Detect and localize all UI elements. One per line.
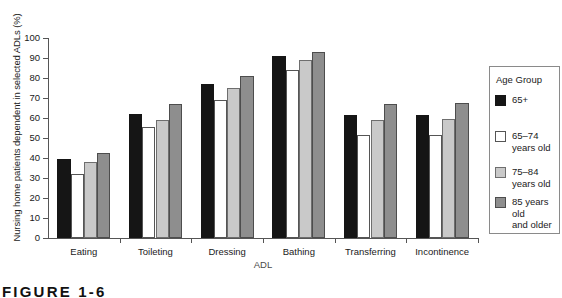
- y-axis-tick-label: 30: [29, 172, 40, 183]
- y-axis-tick-label: 0: [35, 232, 40, 243]
- bar: [142, 127, 155, 238]
- category-label: Transferring: [335, 246, 407, 257]
- bar: [384, 104, 397, 238]
- bar: [129, 114, 142, 238]
- y-axis-tick-label: 50: [29, 132, 40, 143]
- legend-label: 65–74 years old: [512, 130, 551, 153]
- bar: [272, 56, 285, 238]
- y-axis-tick: 50: [43, 138, 48, 139]
- bar: [344, 115, 357, 238]
- y-axis-tick: 100: [43, 38, 48, 39]
- legend-swatch: [495, 197, 506, 208]
- x-axis-tick: [335, 238, 336, 243]
- y-axis-tick: 80: [43, 78, 48, 79]
- figure-caption: FIGURE 1-6: [2, 283, 107, 298]
- y-axis-tick: 30: [43, 178, 48, 179]
- legend-swatch: [495, 131, 506, 142]
- bar: [442, 119, 455, 238]
- x-axis-tick: [478, 238, 479, 243]
- bar: [299, 60, 312, 238]
- legend-title: Age Group: [496, 74, 542, 85]
- legend-label: 75–84 years old: [512, 166, 551, 189]
- y-axis-tick: 20: [43, 198, 48, 199]
- legend: Age Group 65+65–74 years old75–84 years …: [489, 66, 560, 234]
- bar: [286, 70, 299, 238]
- bar: [71, 174, 84, 238]
- legend-swatch: [495, 167, 506, 178]
- bar: [214, 100, 227, 238]
- x-axis-tick: [406, 238, 407, 243]
- y-axis-tick-label: 100: [24, 32, 40, 43]
- category-label: Eating: [48, 246, 120, 257]
- x-axis-tick: [120, 238, 121, 243]
- bar: [169, 104, 182, 238]
- y-axis-tick-label: 70: [29, 92, 40, 103]
- x-axis-title: ADL: [48, 259, 478, 270]
- y-axis-tick-label: 80: [29, 72, 40, 83]
- y-axis-tick: 60: [43, 118, 48, 119]
- bar: [57, 159, 70, 238]
- y-axis-tick: 90: [43, 58, 48, 59]
- bar: [201, 84, 214, 238]
- x-axis-tick: [263, 238, 264, 243]
- category-label: Incontinence: [406, 246, 478, 257]
- bar: [312, 52, 325, 238]
- category-label: Dressing: [191, 246, 263, 257]
- category-label: Toileting: [120, 246, 192, 257]
- legend-swatch: [495, 95, 506, 106]
- y-axis-tick-label: 60: [29, 112, 40, 123]
- bar: [429, 135, 442, 238]
- bar: [416, 115, 429, 238]
- bar: [227, 88, 240, 238]
- bar: [357, 135, 370, 238]
- y-axis-tick: 40: [43, 158, 48, 159]
- plot-area: 0102030405060708090100 EatingToiletingDr…: [48, 38, 478, 238]
- bar: [371, 120, 384, 238]
- legend-label: 85 years old and older: [512, 196, 559, 231]
- bar: [97, 153, 110, 238]
- y-axis-tick-label: 10: [29, 212, 40, 223]
- legend-label: 65+: [512, 94, 528, 106]
- y-axis-tick: 0: [43, 238, 48, 239]
- bar: [240, 76, 253, 238]
- y-axis-tick-label: 20: [29, 192, 40, 203]
- y-axis-tick: 70: [43, 98, 48, 99]
- bar: [156, 120, 169, 238]
- y-axis-tick: 10: [43, 218, 48, 219]
- y-axis-title: Nursing home patients dependent in selec…: [11, 8, 22, 248]
- bar: [84, 162, 97, 238]
- category-label: Bathing: [263, 246, 335, 257]
- y-axis-line: [48, 38, 49, 239]
- y-axis-tick-label: 40: [29, 152, 40, 163]
- x-axis-tick: [191, 238, 192, 243]
- bar: [455, 103, 468, 238]
- y-axis-tick-label: 90: [29, 52, 40, 63]
